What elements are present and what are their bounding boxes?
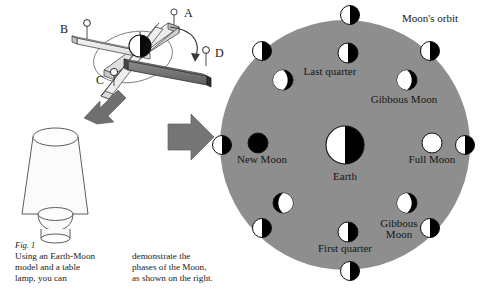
label-new-moon: New Moon bbox=[237, 153, 287, 165]
label-first-quarter: First quarter bbox=[318, 242, 372, 254]
label-gibbous-lower: GibbousMoon bbox=[380, 217, 417, 240]
label-earth: Earth bbox=[333, 170, 357, 182]
figure-number: Fig. 1 bbox=[15, 240, 35, 250]
phase-full-moon bbox=[422, 133, 442, 153]
cropped-top-text bbox=[118, 0, 121, 6]
label-gibbous-upper: Gibbous Moon bbox=[371, 93, 438, 105]
orbit-moon-right bbox=[456, 136, 475, 155]
figure-caption-column-1: Using an Earth-Moon model and a table la… bbox=[15, 251, 125, 284]
model-label-c: C bbox=[96, 73, 104, 87]
figure-caption-column-2: demonstrate the phases of the Moon, as s… bbox=[132, 251, 252, 284]
phase-gibbous-waxing bbox=[397, 193, 417, 213]
model-ball-d bbox=[203, 47, 210, 66]
phase-last-quarter bbox=[338, 43, 358, 63]
label-last-quarter: Last quarter bbox=[304, 65, 357, 77]
orbit-moon-lower-right bbox=[421, 219, 440, 238]
orbit-moon-upper-right bbox=[421, 42, 440, 61]
orbit-moon-lower-left bbox=[253, 219, 272, 238]
orbit-moon-top bbox=[341, 6, 360, 25]
model-label-b: B bbox=[60, 22, 68, 36]
orbit-label: Moon's orbit bbox=[402, 12, 458, 24]
model-label-a: A bbox=[184, 6, 193, 20]
model-rod-d bbox=[124, 59, 211, 87]
table-lamp bbox=[22, 128, 88, 243]
moon-phases-diagram: Moon's orbit bbox=[213, 6, 475, 281]
phase-first-quarter bbox=[338, 222, 358, 242]
orbit-moon-upper-left bbox=[253, 42, 272, 61]
transition-arrow-icon bbox=[168, 114, 214, 160]
label-full-moon: Full Moon bbox=[409, 153, 456, 165]
figure-canvas: A B C D bbox=[0, 0, 486, 305]
model-ball-a bbox=[171, 9, 177, 25]
phase-crescent-waxing bbox=[273, 193, 293, 213]
phase-gibbous-waning bbox=[397, 70, 417, 90]
model-ball-b bbox=[84, 20, 91, 39]
orbit-moon-left bbox=[213, 136, 232, 155]
earth-body bbox=[326, 126, 364, 164]
model-label-d: D bbox=[215, 46, 224, 60]
phase-crescent-waning bbox=[273, 70, 293, 90]
orbit-moon-bottom bbox=[341, 262, 360, 281]
phase-new-moon bbox=[248, 133, 268, 153]
